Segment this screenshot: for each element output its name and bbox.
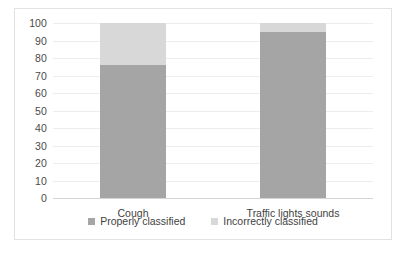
- y-axis-tick-label: 90: [35, 35, 47, 47]
- bar-group: Cough: [100, 23, 166, 198]
- legend-swatch-icon: [211, 218, 218, 225]
- legend-item-label: Properly classified: [100, 215, 185, 227]
- legend-item-label: Incorrectly classified: [223, 215, 318, 227]
- legend-item[interactable]: Properly classified: [88, 215, 185, 227]
- bar-segment-incorrectly-classified[interactable]: [260, 23, 326, 32]
- bar-segment-properly-classified[interactable]: [100, 65, 166, 198]
- stacked-bar[interactable]: [100, 23, 166, 198]
- y-axis-tick-label: 0: [41, 192, 47, 204]
- y-axis-tick-label: 60: [35, 87, 47, 99]
- chart-container: 1009080706050403020100CoughTraffic light…: [14, 8, 392, 240]
- bar-segment-properly-classified[interactable]: [260, 32, 326, 198]
- y-axis-tick-label: 100: [29, 17, 47, 29]
- y-axis-tick-label: 70: [35, 70, 47, 82]
- gridline: [53, 198, 373, 199]
- stacked-bar[interactable]: [260, 23, 326, 198]
- y-axis-tick-label: 10: [35, 175, 47, 187]
- y-axis-tick-label: 40: [35, 122, 47, 134]
- chart-legend: Properly classifiedIncorrectly classifie…: [15, 215, 391, 227]
- y-axis-tick-label: 50: [35, 105, 47, 117]
- legend-item[interactable]: Incorrectly classified: [211, 215, 318, 227]
- y-axis-tick-label: 30: [35, 140, 47, 152]
- bar-group: Traffic lights sounds: [260, 23, 326, 198]
- plot-area: 1009080706050403020100CoughTraffic light…: [53, 23, 373, 198]
- y-axis-tick-label: 80: [35, 52, 47, 64]
- y-axis-tick-label: 20: [35, 157, 47, 169]
- legend-swatch-icon: [88, 218, 95, 225]
- bar-segment-incorrectly-classified[interactable]: [100, 23, 166, 65]
